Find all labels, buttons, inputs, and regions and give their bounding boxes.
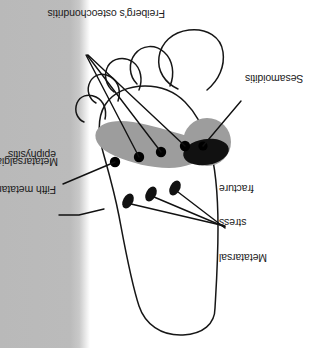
label-line: Freiberg's osteochondritis <box>15 8 165 20</box>
rotated-diagram-group: Metatarsal stress fracture Fifth metatar… <box>0 0 311 348</box>
leader-fifth-metatarsal-epiphysitis <box>59 209 104 215</box>
leader-metatarsalgia <box>63 162 115 184</box>
foot-pathology-figure: Metatarsal stress fracture Fifth metatar… <box>0 0 311 348</box>
label-line: fracture <box>219 183 291 195</box>
foot-outline-group <box>76 30 224 335</box>
stress-fracture-marker-2 <box>143 185 159 204</box>
label-line: stress <box>219 217 291 229</box>
label-line: Metatarsalgia <box>0 156 58 168</box>
hallux-toe-path <box>159 30 224 90</box>
label-metatarsal-stress-fracture: Metatarsal stress fracture <box>219 160 291 287</box>
label-sesamoiditis: Sesamoiditis <box>245 50 311 108</box>
label-line: Metatarsal <box>219 252 291 264</box>
label-freibergs-osteochondritis: Freiberg's osteochondritis <box>15 0 165 42</box>
label-line: Sesamoiditis <box>245 73 311 85</box>
label-metatarsalgia: Metatarsalgia <box>0 133 58 191</box>
stress-fracture-marker-3 <box>120 192 136 211</box>
